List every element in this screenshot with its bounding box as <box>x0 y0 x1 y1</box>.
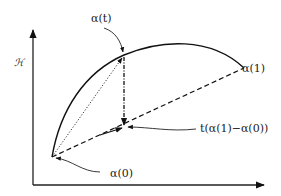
label-alpha-t: α(t) <box>91 12 111 25</box>
axis-label-h: ℋ <box>14 57 26 68</box>
pointer-alpha-t <box>104 28 123 52</box>
pointer-projection <box>128 127 196 130</box>
geodesic-curve <box>52 44 244 157</box>
label-alpha-0: α(0) <box>110 167 133 180</box>
chord-alpha0-alphat <box>52 58 122 157</box>
label-projection: t(α(1)−α(0)) <box>200 122 268 135</box>
label-alpha-1: α(1) <box>242 62 265 75</box>
pointer-alpha-0 <box>56 158 100 172</box>
geodesic-diagram: ℋ α(t) α(1) α(0) t(α(1)−α(0)) <box>0 0 281 196</box>
chord-alpha0-alpha1 <box>52 68 244 157</box>
